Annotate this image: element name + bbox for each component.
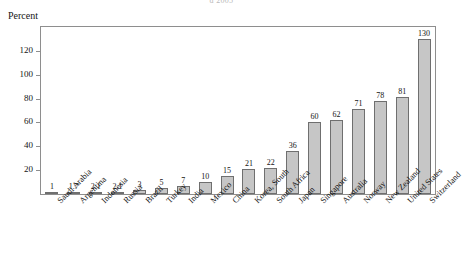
bar [45, 192, 58, 194]
bar-group: 60 [308, 27, 321, 194]
bar-group: 3 [133, 27, 146, 194]
bar-group: 22 [264, 27, 277, 194]
bar-value-label: 15 [223, 166, 231, 175]
y-axis-tick-label: 120 [20, 45, 34, 55]
bar-value-label: 78 [376, 91, 384, 100]
bar-value-label: 1 [50, 182, 54, 191]
bar-group: 81 [396, 27, 409, 194]
y-axis-label: Percent [8, 10, 38, 21]
plot-area: 11.72.12.135710152122366062717881130 [41, 27, 435, 194]
y-axis-tick-mark [36, 51, 40, 52]
bar-value-label: 22 [267, 158, 275, 167]
bar-value-label: 130 [418, 29, 430, 38]
bar-value-label: 36 [289, 141, 297, 150]
cut-off-title: d 2005 [0, 0, 443, 5]
bar-group: 78 [374, 27, 387, 194]
y-axis-tick-mark [36, 99, 40, 100]
y-axis-tick-mark [36, 146, 40, 147]
bar-group: 2.1 [89, 27, 102, 194]
y-axis-tick-mark [36, 75, 40, 76]
bar-group: 62 [330, 27, 343, 194]
bar-group: 15 [221, 27, 234, 194]
y-axis-tick-label: 20 [24, 164, 33, 174]
bar-value-label: 21 [245, 159, 253, 168]
bar-group: 10 [199, 27, 212, 194]
bar-value-label: 60 [311, 112, 319, 121]
bar [308, 122, 321, 194]
y-axis-tick-mark [36, 122, 40, 123]
bar-group: 71 [352, 27, 365, 194]
bar-value-label: 62 [333, 110, 341, 119]
y-axis-tick-label: 60 [24, 116, 33, 126]
bar-value-label: 10 [201, 172, 209, 181]
bar-group: 36 [286, 27, 299, 194]
bar-group: 2.1 [111, 27, 124, 194]
y-axis-tick-label: 80 [24, 93, 33, 103]
y-axis-tick-label: 40 [24, 140, 33, 150]
bar-group: 7 [177, 27, 190, 194]
bar-value-label: 81 [398, 87, 406, 96]
bar-group: 5 [155, 27, 168, 194]
bar-group: 21 [242, 27, 255, 194]
bar-value-label: 71 [354, 99, 362, 108]
y-axis-tick-label: 100 [20, 69, 34, 79]
bar-group: 1 [45, 27, 58, 194]
bar-group: 1.7 [67, 27, 80, 194]
y-axis-tick-mark [36, 170, 40, 171]
